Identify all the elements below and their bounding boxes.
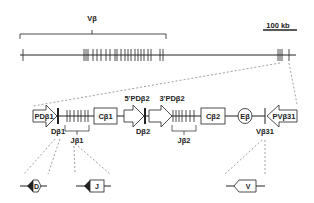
d-segment: D xyxy=(20,180,47,192)
scale-bar-label: 100 kb xyxy=(266,21,290,30)
zoom-line-left xyxy=(33,63,280,106)
d-beta1-label: Dβ1 xyxy=(51,127,65,136)
c-beta1-label: Cβ1 xyxy=(98,112,112,121)
v-segment: V xyxy=(226,180,265,192)
svg-text:V: V xyxy=(246,183,251,190)
j-segment: J xyxy=(76,180,111,192)
svg-text:D: D xyxy=(34,183,39,190)
zoom-line-right xyxy=(289,63,297,104)
pd-beta2-3-promoter xyxy=(149,105,172,127)
pd-beta2-3-label: 3'PDβ2 xyxy=(159,94,184,103)
expansion-lines xyxy=(24,139,265,174)
c-beta2-label: Cβ2 xyxy=(206,112,220,121)
pd-beta2-5-label: 5'PDβ2 xyxy=(124,94,149,103)
v-beta-label: Vβ xyxy=(87,14,97,23)
j-beta1-label: Jβ1 xyxy=(71,136,84,145)
pd-beta2-5-promoter xyxy=(124,105,144,127)
pv-beta31-label: PVβ31 xyxy=(273,112,296,121)
d-beta2-label: Dβ2 xyxy=(136,127,150,136)
e-beta-label: Eβ xyxy=(240,112,250,121)
pd-beta1-label: PDβ1 xyxy=(34,112,53,121)
j-beta2-label: Jβ2 xyxy=(178,136,191,145)
svg-text:J: J xyxy=(95,183,99,190)
tcrb-locus-diagram: Vβ 100 kb PDβ1 Dβ1 Jβ1 Cβ1 5'PD xyxy=(0,0,314,203)
v-beta31-label: Vβ31 xyxy=(256,127,274,136)
v-beta-bracket xyxy=(20,34,166,39)
